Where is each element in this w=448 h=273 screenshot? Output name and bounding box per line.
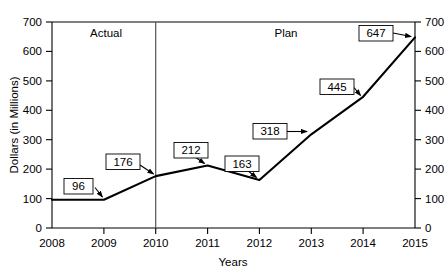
x-axis-title: Years	[219, 256, 248, 268]
x-label-2009: 2009	[91, 237, 117, 249]
y-label-left-600: 600	[23, 45, 42, 57]
y-label-left-300: 300	[23, 134, 42, 146]
y-label-left-700: 700	[23, 16, 42, 28]
y-label-right-100: 100	[425, 193, 444, 205]
y-label-left-0: 0	[36, 222, 42, 234]
plot-frame	[52, 22, 415, 228]
x-label-2013: 2013	[299, 237, 325, 249]
y-axis-left-ticks	[46, 22, 52, 228]
x-label-2011: 2011	[195, 237, 220, 249]
data-label-445: 445	[320, 79, 361, 96]
leader-line-647	[393, 33, 411, 37]
line-chart: 0 100 200 300 400 500 600 700 0 100 200 …	[0, 0, 448, 273]
data-label-96: 96	[64, 179, 102, 198]
data-label-212: 212	[174, 143, 208, 164]
callout-text-318: 318	[260, 125, 279, 137]
data-label-647: 647	[359, 26, 411, 42]
x-axis-labels: 2008 2009 2010 2011 2012 2013 2014 2015	[39, 237, 428, 249]
callout-text-163: 163	[232, 158, 251, 170]
y-label-left-500: 500	[23, 75, 42, 87]
region-label-plan: Plan	[274, 27, 297, 39]
x-label-2014: 2014	[350, 237, 376, 249]
callout-text-445: 445	[327, 81, 346, 93]
y-label-right-200: 200	[425, 163, 444, 175]
leader-line-96	[95, 188, 102, 198]
y-label-left-200: 200	[23, 163, 42, 175]
y-label-right-300: 300	[425, 134, 444, 146]
y-label-right-600: 600	[425, 45, 444, 57]
x-label-2008: 2008	[39, 237, 65, 249]
x-label-2015: 2015	[402, 237, 428, 249]
y-axis-title: Dollars (in Millions)	[8, 76, 20, 173]
callout-text-176: 176	[113, 156, 132, 168]
region-label-actual: Actual	[90, 27, 122, 39]
y-label-left-400: 400	[23, 104, 42, 116]
y-label-left-100: 100	[23, 193, 42, 205]
leader-line-176	[140, 165, 154, 174]
y-label-right-500: 500	[425, 75, 444, 87]
callout-text-96: 96	[72, 180, 85, 192]
x-axis-ticks	[104, 228, 363, 234]
data-label-318: 318	[253, 124, 307, 140]
data-series-line	[52, 37, 415, 199]
y-label-right-400: 400	[425, 104, 444, 116]
callout-text-647: 647	[366, 27, 385, 39]
data-label-176: 176	[106, 154, 154, 174]
y-label-right-700: 700	[425, 16, 444, 28]
y-axis-left-labels: 0 100 200 300 400 500 600 700	[23, 16, 42, 234]
x-label-2010: 2010	[143, 237, 169, 249]
y-axis-right-labels: 0 100 200 300 400 500 600 700	[425, 16, 444, 234]
y-label-right-0: 0	[425, 222, 431, 234]
callout-text-212: 212	[181, 144, 200, 156]
x-label-2012: 2012	[247, 237, 273, 249]
y-axis-right-ticks	[415, 22, 421, 228]
leader-line-445	[354, 88, 361, 96]
chart-canvas: 0 100 200 300 400 500 600 700 0 100 200 …	[0, 0, 448, 273]
